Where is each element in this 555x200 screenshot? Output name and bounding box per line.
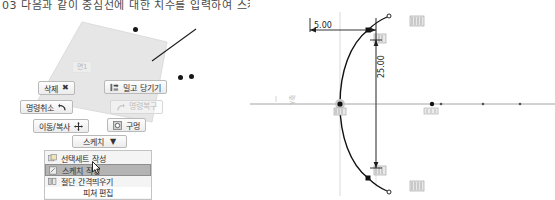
- model-viewport[interactable]: 면1 삭제 ✖ 밀고 당기기 명령취소: [0, 11, 250, 200]
- constraint-badge-origin: [334, 108, 346, 115]
- redo-button[interactable]: 명령복구: [110, 100, 163, 114]
- tangent-handle-bottom: [368, 178, 387, 191]
- delete-button[interactable]: 삭제 ✖: [38, 81, 75, 95]
- sketch-dropdown-button[interactable]: 스케치 ▼: [72, 135, 127, 148]
- axis-point-3: [482, 103, 485, 106]
- vertex-dot-far-right[interactable]: [189, 74, 194, 79]
- hole-button[interactable]: 구멍: [107, 118, 146, 132]
- screenshot-root: 03 다음과 같이 중심선에 대한 치수를 입력하여 스케치를 완성합니다. 면…: [0, 0, 555, 200]
- sketch-viewport[interactable]: 5.00 25.00 Y축: [250, 0, 555, 200]
- axis-point-2: [440, 103, 443, 106]
- vertex-dot-top[interactable]: [133, 27, 138, 32]
- move-copy-label: 이동/복사: [39, 121, 70, 132]
- move-copy-button[interactable]: 이동/복사: [33, 119, 89, 133]
- redo-arrow-icon: [116, 103, 125, 112]
- hole-circle-icon: [113, 121, 122, 130]
- axis-label: Y축: [287, 95, 297, 105]
- hole-label: 구멍: [126, 120, 140, 131]
- vertex-dot-right[interactable]: [178, 75, 183, 80]
- mouse-cursor-icon: [92, 161, 102, 175]
- sketch-dropdown-label: 스케치: [83, 136, 104, 147]
- axis-point-4: [519, 103, 522, 106]
- redo-label: 명령복구: [129, 103, 157, 111]
- selection-set-icon: [48, 154, 57, 163]
- undo-button[interactable]: 명령취소: [20, 100, 73, 114]
- move-cross-icon: [74, 122, 83, 131]
- handle-endpoint-top: [387, 14, 391, 18]
- handle-endpoint-bottom: [387, 190, 391, 194]
- menu-label-edit-feature: 피쳐 편집: [83, 187, 114, 198]
- constraint-badge-axis: [424, 108, 438, 114]
- axis-point-1: [430, 102, 434, 106]
- menu-label-section-offset: 절단 간격띄우기: [61, 176, 113, 187]
- x-mark-icon: ✖: [62, 84, 69, 92]
- menu-item-edit-feature[interactable]: 피쳐 편집: [45, 187, 151, 198]
- sketch-dropdown-menu[interactable]: 선택세트 작성 스케치 작성 절단 간격띄우기 피쳐 편집: [44, 150, 152, 200]
- control-point-bottom: [366, 176, 371, 181]
- delete-label: 삭제: [44, 83, 58, 94]
- origin-point: [337, 101, 342, 106]
- section-offset-icon: [48, 177, 57, 186]
- push-pull-label: 밀고 당기기: [123, 82, 161, 93]
- constraint-badge-bottom-outer: [410, 181, 424, 191]
- horizontal-dimension-value[interactable]: 5.00: [314, 21, 332, 30]
- undo-label: 명령취소: [26, 102, 54, 113]
- face-tooltip-label: 면1: [72, 61, 92, 73]
- constraint-badge-top-outer: [410, 16, 424, 26]
- chevron-down-icon: ▼: [110, 138, 116, 146]
- menu-item-section-offset[interactable]: 절단 간격띄우기: [45, 176, 151, 187]
- vertical-dimension-value[interactable]: 25.00: [377, 55, 386, 78]
- undo-arrow-icon: [58, 103, 67, 112]
- push-pull-button[interactable]: 밀고 당기기: [104, 80, 167, 94]
- sketch-icon: [49, 166, 58, 175]
- leader-line: [150, 25, 210, 65]
- push-pull-icon: [110, 83, 119, 92]
